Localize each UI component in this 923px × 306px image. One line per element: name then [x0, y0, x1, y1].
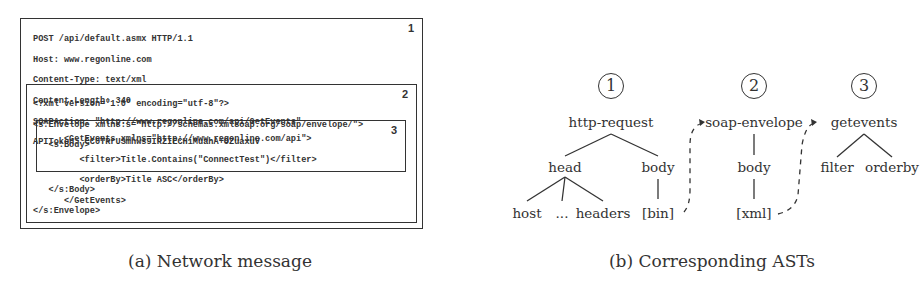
node-head: head — [548, 159, 581, 175]
tree-marker-3: 3 — [851, 73, 877, 99]
node-body: body — [641, 159, 674, 175]
tree-marker-1: 1 — [598, 73, 624, 99]
node-headers: headers — [576, 205, 631, 221]
node-filter: filter — [820, 159, 853, 175]
node-http-request: http-request — [569, 114, 654, 130]
tree-marker-2: 2 — [741, 73, 767, 99]
node-orderby: orderby — [865, 159, 919, 175]
caption-corresponding-asts: (b) Corresponding ASTs — [609, 251, 815, 271]
node-soap-envelope: soap-envelope — [705, 114, 803, 130]
node-getevents: getevents — [831, 114, 898, 130]
node-ellipsis: ... — [556, 205, 569, 221]
node-soap-body: body — [737, 159, 770, 175]
node-bin: [bin] — [642, 205, 674, 221]
node-host: host — [512, 205, 541, 221]
node-xml: [xml] — [736, 205, 771, 221]
